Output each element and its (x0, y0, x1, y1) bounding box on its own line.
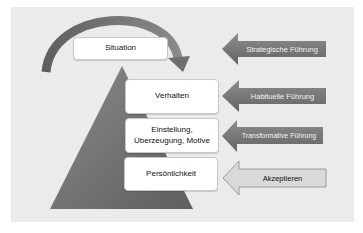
diagram-shapes (0, 0, 363, 233)
arrow-label-akzeptieren: Akzeptieren (239, 169, 326, 187)
layer-einstellung: Einstellung, Überzeugung, Motive (125, 118, 219, 153)
arrow-label-strategische: Strategische Führung (238, 41, 326, 57)
layer-verhalten: Verhalten (125, 79, 219, 114)
arrow-label-transformative: Transformative Führung (234, 127, 324, 144)
arrow-label-habituelle: Habituelle Führung (239, 88, 326, 104)
layer-situation-label: Situation (105, 43, 136, 53)
layer-persoenlichkeit: Persönlichkeit (124, 157, 218, 191)
layer-situation: Situation (73, 37, 168, 60)
layer-einstellung-label: Einstellung, Überzeugung, Motive (134, 125, 210, 146)
layer-persoenlichkeit-label: Persönlichkeit (146, 169, 196, 179)
layer-verhalten-label: Verhalten (155, 91, 189, 101)
